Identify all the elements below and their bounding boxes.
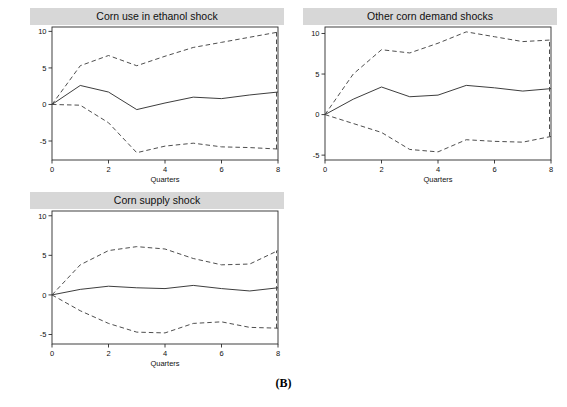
x-axis-label: Quarters [423,175,452,184]
plot-area-corn-use-in-ethanol-shock: 1050-502468Quarters [30,8,284,192]
series-line [52,104,278,152]
x-tick-label: 4 [436,165,440,174]
x-tick-label: 8 [276,349,280,358]
x-tick-label: 4 [163,349,167,358]
x-tick-label: 2 [106,349,110,358]
x-tick-label: 6 [219,349,223,358]
y-tick-label: 0 [42,291,46,300]
plot-area-other-corn-demand-shocks: 1050-502468Quarters [303,8,557,192]
plot-frame [325,27,551,160]
x-tick-label: 8 [549,165,553,174]
y-tick-label: 5 [42,251,46,260]
y-tick-label: 0 [42,100,46,109]
y-tick-label: -5 [40,330,47,339]
series-line [325,115,551,152]
y-tick-label: -5 [40,137,47,146]
series-line [325,32,551,115]
x-tick-label: 2 [379,165,383,174]
y-tick-label: 5 [42,64,46,73]
series-line [52,32,278,104]
y-tick-label: 10 [38,212,46,221]
x-tick-label: 0 [50,349,54,358]
y-tick-label: 10 [38,27,46,36]
chart-svg: 1050-502468Quarters [30,192,284,372]
chart-svg: 1050-502468Quarters [303,8,557,188]
x-axis-label: Quarters [150,359,179,368]
figure-panel-letter: (B) [0,376,567,391]
impulse-response-figure: Corn use in ethanol shock 1050-502468Qua… [0,0,567,407]
x-tick-label: 0 [50,165,54,174]
x-tick-label: 4 [163,165,167,174]
series-line [52,285,278,295]
series-line [52,85,278,109]
y-tick-label: 10 [311,29,319,38]
series-line [52,247,278,295]
x-tick-label: 6 [219,165,223,174]
x-tick-label: 0 [323,165,327,174]
series-line [52,295,278,333]
y-tick-label: -5 [313,151,320,160]
plot-area-corn-supply-shock: 1050-502468Quarters [30,192,284,376]
y-tick-label: 0 [315,110,319,119]
panel-corn-supply-shock: Corn supply shock 1050-502468Quarters [30,192,284,372]
x-tick-label: 8 [276,165,280,174]
panel-corn-use-in-ethanol-shock: Corn use in ethanol shock 1050-502468Qua… [30,8,284,188]
series-line [325,85,551,114]
chart-svg: 1050-502468Quarters [30,8,284,188]
plot-frame [52,27,278,160]
x-tick-label: 2 [106,165,110,174]
y-tick-label: 5 [315,70,319,79]
x-axis-label: Quarters [150,175,179,184]
plot-frame [52,211,278,344]
x-tick-label: 6 [492,165,496,174]
panel-other-corn-demand-shocks: Other corn demand shocks 1050-502468Quar… [303,8,557,188]
